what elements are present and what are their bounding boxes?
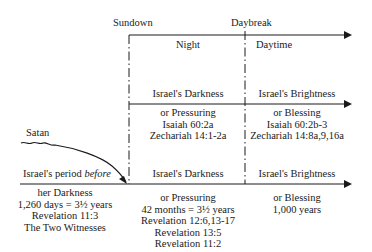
middle-brightness-details: or Blessing Isaiah 60:2b-3 Zechariah 14:…: [250, 107, 344, 142]
detail-line: 1,000 years: [273, 204, 321, 216]
before-heading-italic: before: [84, 168, 110, 179]
satan-label: Satan: [26, 127, 49, 139]
detail-line: or Blessing: [250, 107, 344, 119]
detail-line: Isaiah 60:2b-3: [250, 119, 344, 131]
detail-line: 1,260 days = 3½ years: [18, 199, 113, 211]
middle-darkness-heading: Israel's Darkness: [153, 88, 224, 100]
daybreak-label: Daybreak: [231, 17, 272, 29]
bottom-darkness-heading: Israel's Darkness: [153, 168, 224, 180]
detail-line: 42 months = 3½ years: [141, 204, 235, 216]
bottom-brightness-details: or Blessing 1,000 years: [273, 192, 321, 215]
satan-arrowhead-icon: [119, 176, 127, 184]
middle-brightness-heading: Israel's Brightness: [259, 88, 336, 100]
detail-line: or Blessing: [273, 192, 321, 204]
middle-arrowhead-icon: [344, 100, 352, 108]
timeline-diagram: Sundown Daybreak Night Daytime Israel's …: [0, 0, 372, 252]
before-heading: Israel's period before: [23, 168, 111, 180]
top-arrowhead-icon: [344, 31, 352, 39]
detail-line: Revelation 11:3: [18, 210, 113, 222]
sundown-label: Sundown: [113, 17, 153, 29]
bottom-darkness-details: or Pressuring 42 months = 3½ years Revel…: [141, 192, 235, 250]
bottom-brightness-heading: Israel's Brightness: [259, 168, 336, 180]
detail-line: Revelation 12:6,13-17: [141, 215, 235, 227]
detail-line: or Pressuring: [150, 107, 227, 119]
night-label: Night: [176, 39, 200, 51]
detail-line: Revelation 11:2: [141, 238, 235, 250]
middle-darkness-details: or Pressuring Isaiah 60:2a Zechariah 14:…: [150, 107, 227, 142]
detail-line: Isaiah 60:2a: [150, 119, 227, 131]
detail-line: The Two Witnesses: [18, 222, 113, 234]
before-heading-text: Israel's period: [23, 168, 84, 179]
detail-line: Revelation 13:5: [141, 227, 235, 239]
detail-line: or Pressuring: [141, 192, 235, 204]
bottom-arrowhead-icon: [344, 180, 352, 188]
detail-line: Zechariah 14:8a,9,16a: [250, 130, 344, 142]
detail-line: her Darkness: [18, 187, 113, 199]
daytime-label: Daytime: [256, 39, 292, 51]
before-details: her Darkness 1,260 days = 3½ years Revel…: [18, 187, 113, 233]
detail-line: Zechariah 14:1-2a: [150, 130, 227, 142]
